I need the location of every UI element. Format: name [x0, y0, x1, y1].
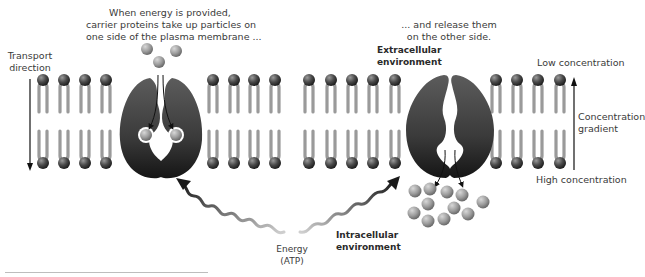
particles-inside [408, 183, 490, 228]
phospholipid [389, 74, 401, 112]
label-line: Concentration [578, 111, 645, 123]
energy-arrowhead-left [176, 178, 191, 190]
phospholipid [228, 74, 240, 112]
label-line: (ATP) [272, 255, 312, 267]
carrier-protein-release [406, 75, 494, 185]
concentration-gradient-label: Concentration gradient [578, 111, 645, 135]
particle [140, 129, 152, 141]
phospholipid [79, 131, 91, 169]
carrier-protein-uptake [120, 75, 202, 178]
phospholipid [325, 131, 337, 169]
phospholipid [303, 74, 315, 112]
phospholipid [367, 74, 379, 112]
label-line: Intracellular [336, 229, 401, 241]
phospholipid [511, 131, 523, 169]
phospholipid [228, 131, 240, 169]
phospholipid [389, 131, 401, 169]
caption-line: carrier proteins take up particles on [86, 19, 254, 31]
phospholipid [554, 74, 566, 112]
energy-wave-right [300, 182, 394, 232]
caption-uptake: When energy is provided, carrier protein… [86, 7, 254, 43]
phospholipid [58, 74, 70, 112]
phospholipid [248, 74, 260, 112]
phospholipid [367, 131, 379, 169]
phospholipid [532, 131, 544, 169]
label-line: Transport [4, 50, 56, 62]
caption-line: one side of the plasma membrane ... [86, 31, 254, 43]
phospholipid [554, 131, 566, 169]
phospholipid [346, 131, 358, 169]
phospholipid [37, 74, 49, 112]
divider-line [5, 272, 208, 273]
phospholipid [269, 74, 281, 112]
caption-line: When energy is provided, [86, 7, 254, 19]
phospholipid [79, 74, 91, 112]
phospholipid [207, 74, 219, 112]
label-line: Extracellular [377, 44, 442, 56]
low-concentration-label: Low concentration [537, 57, 625, 69]
phospholipid [325, 74, 337, 112]
caption-release: ... and release them on the other side. [392, 19, 506, 43]
phospholipid [346, 74, 358, 112]
particle [170, 129, 182, 141]
phospholipid [100, 131, 112, 169]
label-line: gradient [578, 123, 645, 135]
label-line: environment [336, 241, 401, 253]
intracellular-label: Intracellular environment [336, 229, 401, 253]
phospholipid [269, 131, 281, 169]
particles-outside [141, 43, 182, 68]
phospholipid [490, 74, 502, 112]
phospholipid [37, 131, 49, 169]
phospholipid [100, 74, 112, 112]
label-line: direction [4, 62, 56, 74]
energy-wave-left [182, 184, 284, 233]
phospholipid [511, 74, 523, 112]
phospholipid [303, 131, 315, 169]
transport-direction-label: Transport direction [4, 50, 56, 74]
label-line: environment [377, 56, 442, 68]
extracellular-label: Extracellular environment [377, 44, 442, 68]
high-concentration-label: High concentration [536, 174, 627, 186]
phospholipid [532, 74, 544, 112]
phospholipid [248, 131, 260, 169]
phospholipid [207, 131, 219, 169]
caption-line: on the other side. [392, 31, 506, 43]
energy-atp-label: Energy (ATP) [272, 243, 312, 267]
label-line: Energy [272, 243, 312, 255]
caption-line: ... and release them [392, 19, 506, 31]
phospholipid [58, 131, 70, 169]
